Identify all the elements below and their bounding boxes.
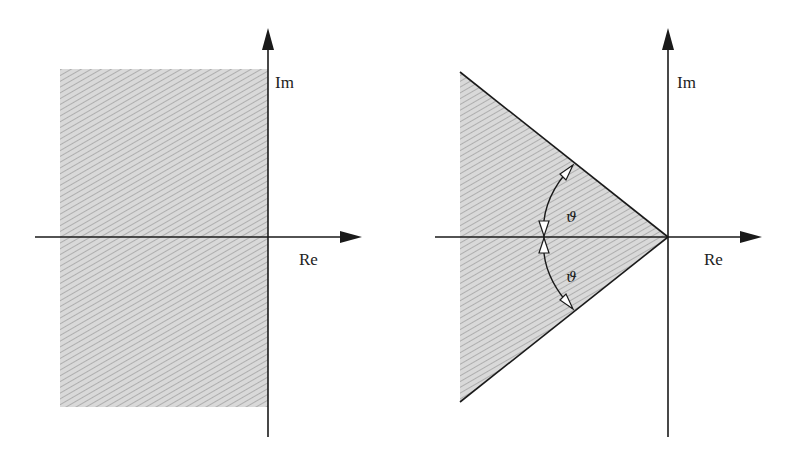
left-im-label: Im xyxy=(275,73,294,92)
right-panel: ϑ ϑ Im Re xyxy=(435,28,762,437)
angle-label-upper: ϑ xyxy=(566,208,577,226)
right-im-label: Im xyxy=(677,73,696,92)
right-re-arrow-icon xyxy=(740,231,762,243)
left-re-arrow-icon xyxy=(340,231,362,243)
left-re-label: Re xyxy=(299,250,318,269)
left-half-plane-region xyxy=(60,69,268,407)
left-im-arrow-icon xyxy=(262,28,274,50)
angle-label-lower: ϑ xyxy=(566,268,577,286)
right-re-label: Re xyxy=(704,250,723,269)
right-im-arrow-icon xyxy=(662,28,674,50)
figure-canvas: Im Re ϑ ϑ Im Re xyxy=(0,0,786,453)
left-panel: Im Re xyxy=(35,28,362,437)
